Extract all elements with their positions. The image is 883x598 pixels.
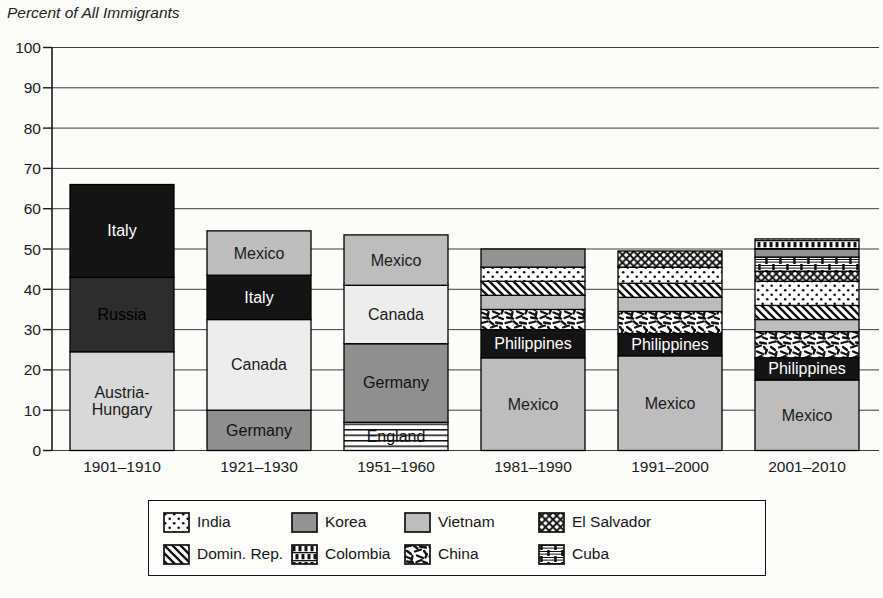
y-tick-label: 100	[15, 39, 41, 56]
bar-segment-vietnam	[481, 295, 585, 309]
bar-segment-label: Hungary	[92, 401, 152, 418]
bar-segment-china	[755, 332, 859, 358]
bar-segment-label: Philippines	[494, 335, 571, 352]
x-axis-label: 1991–2000	[631, 458, 709, 475]
bar-segment-vietnam	[618, 297, 722, 311]
bar-segment-korea	[755, 249, 859, 257]
bar-segment-label: Mexico	[508, 396, 559, 413]
legend-label: Colombia	[325, 545, 390, 563]
legend-label: Domin. Rep.	[197, 545, 283, 563]
bar-segment-label: England	[367, 428, 426, 445]
x-axis-label: 1951–1960	[357, 458, 435, 475]
legend-item-vietnam: Vietnam	[404, 511, 495, 533]
bar-segment-label: Mexico	[234, 245, 285, 262]
legend-item-korea: Korea	[291, 511, 366, 533]
bar-segment-korea	[481, 249, 585, 267]
bar-segment-label: Italy	[244, 289, 273, 306]
legend-label: India	[197, 513, 231, 531]
bar-segment-dominican-republic	[481, 281, 585, 295]
x-axis-label: 1901–1910	[83, 458, 161, 475]
immigration-stacked-bar-chart-page: Percent of All Immigrants	[0, 0, 883, 598]
legend-label: Vietnam	[438, 513, 495, 531]
bar-segment-label: Canada	[231, 356, 287, 373]
bar-segment-el-salvador	[618, 251, 722, 267]
legend-item-india: India	[163, 511, 231, 533]
x-axis-label: 1981–1990	[494, 458, 572, 475]
bar-segment-china	[618, 311, 722, 333]
bar-segment-vietnam	[755, 320, 859, 332]
legend-label: Korea	[325, 513, 366, 531]
bar-segment-label: Mexico	[371, 252, 422, 269]
legend-swatch-icon	[163, 544, 190, 565]
legend-swatch-icon	[538, 512, 565, 533]
bar-2001–2010: MexicoPhilippines	[755, 239, 859, 451]
y-tick-label: 90	[24, 79, 42, 96]
bar-segment-colombia	[755, 239, 859, 249]
legend-item-cuba: Cuba	[538, 543, 609, 565]
y-tick-label: 30	[24, 321, 42, 338]
legend-item-colombia: Colombia	[291, 543, 390, 565]
y-tick-label: 80	[24, 120, 42, 137]
bar-segment-india	[481, 267, 585, 281]
y-tick-label: 60	[24, 200, 42, 217]
y-tick-label: 10	[24, 402, 42, 419]
legend-label: Cuba	[572, 545, 609, 563]
bar-segment-dominican-republic	[618, 283, 722, 297]
bar-1901–1910: Austria-HungaryRussiaItaly	[70, 185, 174, 451]
bar-1921–1930: GermanyCanadaItalyMexico	[207, 231, 311, 451]
bar-segment-label: Germany	[226, 422, 292, 439]
bar-segment-label: Germany	[363, 374, 429, 391]
legend-swatch-icon	[538, 544, 565, 565]
legend-swatch-icon	[404, 544, 431, 565]
bar-1991–2000: MexicoPhilippines	[618, 251, 722, 450]
y-tick-label: 20	[24, 361, 42, 378]
bar-segment-label: Austria-	[94, 384, 149, 401]
bar-segment-label: Italy	[107, 222, 136, 239]
bar-segment-label: Mexico	[782, 407, 833, 424]
legend-item-el-salvador: El Salvador	[538, 511, 651, 533]
legend-swatch-icon	[291, 544, 318, 565]
bar-segment-label: Russia	[98, 306, 147, 323]
legend: IndiaKoreaVietnamEl SalvadorDomin. Rep.C…	[148, 500, 766, 576]
bar-segment-dominican-republic	[755, 305, 859, 319]
legend-item-domin-rep-: Domin. Rep.	[163, 543, 283, 565]
bar-1951–1960: EnglandGermanyCanadaMexico	[344, 235, 448, 451]
y-tick-label: 40	[24, 281, 42, 298]
bar-segment-china	[481, 309, 585, 329]
bar-segment-label: Mexico	[645, 395, 696, 412]
legend-label: China	[438, 545, 479, 563]
x-axis-label: 1921–1930	[220, 458, 298, 475]
y-tick-label: 0	[32, 442, 41, 459]
bar-segment-label: Philippines	[631, 336, 708, 353]
legend-swatch-icon	[404, 512, 431, 533]
y-tick-label: 50	[24, 241, 42, 258]
bar-1981–1990: MexicoPhilippines	[481, 249, 585, 451]
bar-segment-india	[755, 281, 859, 305]
bar-segment-label: Canada	[368, 306, 424, 323]
legend-item-china: China	[404, 543, 479, 565]
bar-segment-cuba	[755, 257, 859, 271]
bar-segment-label: Philippines	[768, 360, 845, 377]
legend-swatch-icon	[163, 512, 190, 533]
stacked-bar-chart: Austria-HungaryRussiaItalyGermanyCanadaI…	[0, 0, 883, 492]
bar-segment-el-salvador	[755, 271, 859, 281]
x-axis-label: 2001–2010	[768, 458, 846, 475]
y-tick-label: 70	[24, 160, 42, 177]
legend-label: El Salvador	[572, 513, 651, 531]
legend-swatch-icon	[291, 512, 318, 533]
bar-segment-india	[618, 267, 722, 283]
